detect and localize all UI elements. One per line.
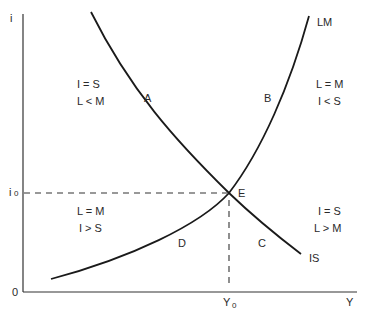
region-c-condition-1: I = S (318, 205, 341, 217)
region-b-condition-2: I < S (318, 95, 341, 107)
equilibrium-label: E (238, 187, 245, 199)
region-d-condition-1: L = M (77, 205, 104, 217)
region-a-condition-1: I = S (77, 78, 100, 90)
x-axis-label: Y (346, 296, 354, 308)
region-a-condition-2: L < M (77, 95, 104, 107)
region-b-condition-1: L = M (316, 78, 343, 90)
lm-curve-label: LM (317, 16, 332, 28)
is-lm-diagram: i 0 Y i 0 Y 0 LM IS E A B C D I = S L < … (0, 0, 367, 315)
origin-label: 0 (12, 286, 18, 298)
y0-label: Y (223, 296, 231, 308)
region-d-label: D (178, 237, 186, 249)
region-b-label: B (264, 92, 271, 104)
region-a-label: A (144, 92, 152, 104)
y-axis-label: i (10, 12, 12, 24)
is-curve-label: IS (309, 252, 319, 264)
region-c-condition-2: L > M (314, 222, 341, 234)
region-d-condition-2: I > S (79, 222, 102, 234)
region-c-label: C (258, 237, 266, 249)
i0-label: i (9, 186, 11, 198)
i0-subscript: 0 (14, 189, 19, 198)
is-curve (91, 12, 301, 254)
y0-subscript: 0 (232, 301, 237, 310)
